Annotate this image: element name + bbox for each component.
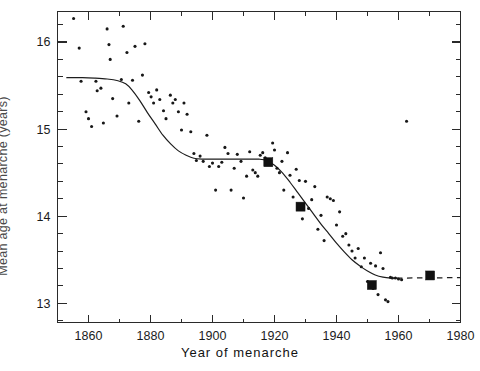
data-point-dot [386, 300, 389, 303]
data-point-dot [335, 223, 338, 226]
data-point-dot [177, 110, 180, 113]
data-point-dot [72, 17, 75, 20]
data-point-dot [369, 262, 372, 265]
data-point-dot [211, 162, 214, 165]
data-point-dot [248, 150, 251, 153]
x-axis-major-ticks [89, 12, 461, 323]
data-point-dot [326, 196, 329, 199]
data-point-dot [226, 152, 229, 155]
data-point-dot [202, 160, 205, 163]
data-point-dot [102, 121, 105, 124]
data-point-dot [329, 197, 332, 200]
plot-frame [58, 12, 461, 323]
data-point-dot [171, 101, 174, 104]
data-point-dot [220, 161, 223, 164]
data-point-dot [301, 217, 304, 220]
data-point-dot [109, 58, 112, 61]
data-point-dot [319, 214, 322, 217]
data-point-dot [162, 109, 165, 112]
data-point-dot [242, 196, 245, 199]
data-point-dot [245, 175, 248, 178]
data-point-dot [223, 146, 226, 149]
data-point-dot [182, 101, 185, 104]
x-axis-tick-labels: 1860188019001920194019601980 [75, 329, 475, 343]
data-point-dot [338, 210, 341, 213]
data-point-dot [233, 167, 236, 170]
x-tick-label: 1900 [199, 329, 227, 343]
x-tick-label: 1960 [385, 329, 413, 343]
data-point-dot [87, 117, 90, 120]
data-point-dot [96, 89, 99, 92]
data-point-dot [397, 277, 400, 280]
data-point-dot [152, 101, 155, 104]
data-point-dot [186, 113, 189, 116]
data-point-dot [280, 160, 283, 163]
x-tick-label: 1860 [75, 329, 103, 343]
data-point-dot [180, 128, 183, 131]
data-point-dot [288, 174, 291, 177]
data-point-square [426, 271, 435, 280]
data-point-dot [137, 120, 140, 123]
series-national-survey-estimates [264, 158, 435, 290]
data-point-dot [256, 175, 259, 178]
data-point-dot [169, 94, 172, 97]
data-point-dot [381, 267, 384, 270]
data-point-dot [127, 101, 130, 104]
data-point-dot [115, 114, 118, 117]
data-point-dot [107, 43, 110, 46]
data-point-square [367, 281, 376, 290]
data-point-dot [323, 239, 326, 242]
y-tick-label: 14 [37, 210, 51, 224]
data-point-dot [278, 171, 281, 174]
data-point-dot [307, 207, 310, 210]
data-point-dot [80, 80, 83, 83]
data-point-dot [199, 155, 202, 158]
data-point-dot [174, 98, 177, 101]
data-point-dot [298, 179, 301, 182]
data-point-dot [295, 168, 298, 171]
data-point-dot [259, 154, 262, 157]
data-point-dot [217, 165, 220, 168]
data-point-dot [261, 151, 264, 154]
data-point-dot [78, 47, 81, 50]
data-point-dot [143, 42, 146, 45]
x-tick-label: 1980 [447, 329, 475, 343]
data-point-dot [236, 153, 239, 156]
data-point-dot [275, 167, 278, 170]
y-tick-label: 15 [37, 123, 51, 137]
data-point-dot [150, 95, 153, 98]
data-point-dot [94, 80, 97, 83]
x-axis-title: Year of menarche [181, 345, 299, 360]
data-point-dot [332, 199, 335, 202]
data-point-dot [205, 134, 208, 137]
data-point-dot [90, 125, 93, 128]
data-point-dot [141, 74, 144, 77]
data-point-dot [379, 251, 382, 254]
data-point-dot [304, 180, 307, 183]
x-axis-minor-ticks [58, 12, 430, 323]
data-point-dot [254, 171, 257, 174]
data-point-dot [273, 148, 276, 151]
data-point-dot [391, 277, 394, 280]
x-tick-label: 1920 [261, 329, 289, 343]
data-point-dot [164, 117, 167, 120]
y-axis-tick-labels: 13141516 [37, 35, 51, 310]
data-point-dot [405, 120, 408, 123]
series-individual-observations [72, 17, 408, 303]
data-point-dot [214, 189, 217, 192]
x-tick-label: 1880 [137, 329, 165, 343]
data-point-dot [292, 196, 295, 199]
y-tick-label: 16 [37, 35, 51, 49]
data-point-dot [192, 152, 195, 155]
data-point-dot [106, 27, 109, 30]
y-axis-title: Mean age at menarche (years) [0, 96, 10, 275]
data-point-dot [400, 278, 403, 281]
data-point-dot [394, 277, 397, 280]
data-point-dot [374, 264, 377, 267]
axis-frame [58, 12, 461, 323]
data-point-dot [357, 247, 360, 250]
data-point-dot [99, 87, 102, 90]
data-point-dot [363, 256, 366, 259]
data-point-dot [310, 198, 313, 201]
data-point-dot [230, 189, 233, 192]
